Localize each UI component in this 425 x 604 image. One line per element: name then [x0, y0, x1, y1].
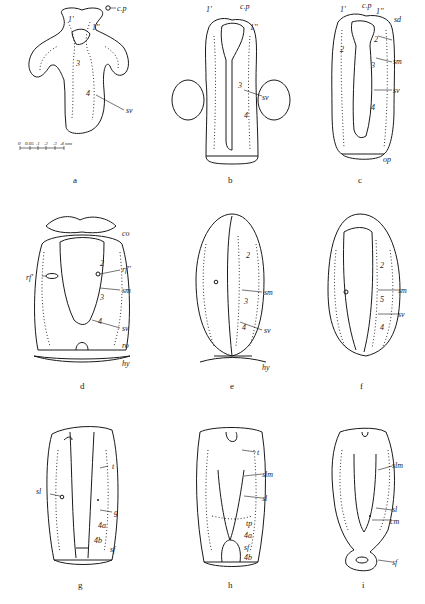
label-4: 4: [242, 323, 246, 332]
label-sv: sv: [393, 86, 400, 95]
caption-h: h: [228, 580, 233, 590]
label-1dprime: 1'': [250, 23, 258, 32]
panel-e: 2 sm 3 sv 4 hy e: [196, 214, 273, 391]
label-2-right: 2: [374, 35, 378, 44]
label-sm: sm: [264, 288, 273, 297]
caption-e: e: [230, 381, 234, 391]
panel-b: 1' c.p 1'' 3 4 sv b: [172, 2, 290, 185]
label-sf: sf: [110, 545, 117, 554]
label-4: 4: [98, 317, 102, 326]
label-cp: c.p: [362, 1, 372, 10]
caption-i: i: [362, 580, 365, 590]
label-cm: cm: [390, 517, 400, 526]
scale-tick-5: .4 mm: [60, 141, 73, 146]
panel-a: c.p 1' 1'' 3 4 sv 0 0.05 .1 .2 .3 .4 mm …: [18, 4, 133, 185]
label-2: 2: [246, 251, 250, 260]
label-sl: sl: [262, 494, 268, 503]
label-rf2: rf'': [122, 265, 131, 274]
caption-g: g: [78, 580, 83, 590]
label-sv: sv: [262, 93, 269, 102]
label-1dprime: 1'': [92, 23, 100, 32]
label-co: co: [122, 229, 130, 238]
label-4: 4: [371, 103, 375, 112]
label-2-left: 2: [340, 45, 344, 54]
label-hy: hy: [122, 359, 130, 368]
label-sf: sf: [244, 543, 251, 552]
panel-d: co rf' rf'' 2 sm 3 sv 4 ro hy d: [26, 217, 131, 391]
label-sm: sm: [393, 57, 402, 66]
label-4: 4: [244, 111, 248, 120]
label-sv: sv: [122, 324, 129, 333]
label-4: 4: [380, 323, 384, 332]
scale-tick-3: .2: [44, 141, 48, 146]
panel-h: t slm sl tp 4a sf 4b h: [197, 428, 274, 591]
label-3: 3: [237, 81, 242, 90]
scale-tick-4: .3: [53, 141, 57, 146]
label-rf1: rf': [26, 273, 33, 282]
label-2: 2: [380, 261, 384, 270]
label-sm: sm: [122, 286, 131, 295]
label-3: 3: [243, 297, 248, 306]
label-sf: sf: [392, 558, 399, 567]
label-op: op: [383, 155, 391, 164]
label-sv: sv: [126, 106, 133, 115]
label-4: 4: [86, 89, 90, 98]
label-t: t: [112, 462, 115, 471]
label-1dprime: 1'': [376, 7, 384, 16]
label-4a: 4a: [98, 521, 106, 530]
label-4b: 4b: [244, 553, 252, 562]
label-sd: sd: [394, 15, 402, 24]
label-1prime: 1': [340, 5, 346, 14]
label-tp: tp: [246, 519, 252, 528]
label-5: 5: [380, 295, 384, 304]
scale-tick-2: .1: [36, 141, 40, 146]
label-t: t: [257, 448, 260, 457]
label-3: 3: [99, 293, 104, 302]
label-cp: c.p: [117, 4, 127, 13]
label-hy: hy: [262, 363, 270, 372]
panel-f: 2 sm 5 sv 4 f: [328, 214, 407, 391]
panel-c: 1' c.p 1'' sd 2 2 sm 3 sv 4 op c: [332, 1, 402, 185]
label-3: 3: [370, 61, 375, 70]
scale-tick-1: 0.05: [25, 141, 34, 146]
label-cp: c.p: [240, 2, 250, 11]
scale-tick-0: 0: [18, 141, 21, 146]
label-slm: slm: [262, 470, 273, 479]
label-3: 3: [75, 59, 80, 68]
label-4b: 4b: [94, 536, 102, 545]
caption-b: b: [228, 175, 233, 185]
panel-i: slm sl cm sf i: [332, 428, 403, 590]
anatomical-figure: c.p 1' 1'' 3 4 sv 0 0.05 .1 .2 .3 .4 mm …: [0, 0, 425, 604]
label-sv: sv: [398, 310, 405, 319]
label-ro: ro: [122, 341, 129, 350]
caption-f: f: [360, 381, 363, 391]
label-sv: sv: [264, 326, 271, 335]
label-slm: slm: [392, 461, 403, 470]
caption-a: a: [73, 175, 77, 185]
label-1prime: 1': [206, 5, 212, 14]
caption-d: d: [80, 381, 85, 391]
caption-c: c: [358, 175, 362, 185]
label-2: 2: [100, 259, 104, 268]
label-sm: sm: [398, 286, 407, 295]
panel-g: t sl g 4a 4b sf g: [36, 427, 118, 590]
label-g: g: [114, 508, 118, 517]
label-sl: sl: [392, 505, 398, 514]
label-4a: 4a: [244, 531, 252, 540]
label-sl: sl: [36, 487, 42, 496]
label-1prime: 1': [68, 15, 74, 24]
